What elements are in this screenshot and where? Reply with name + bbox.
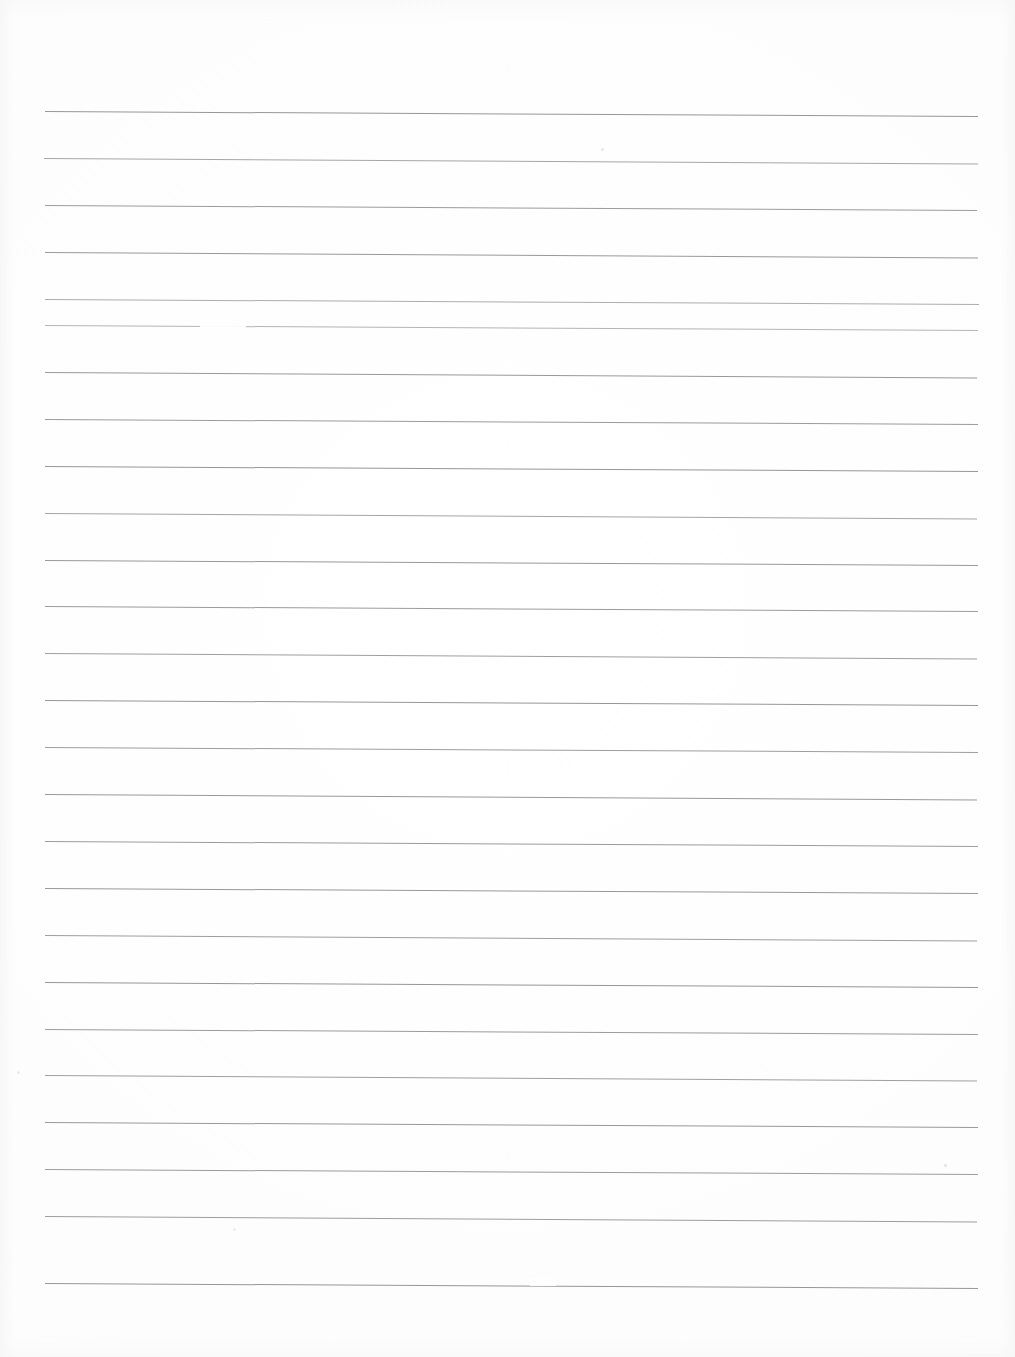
ruled-line <box>45 1169 978 1175</box>
ruled-line <box>45 205 977 211</box>
ruled-line <box>45 794 977 800</box>
ruled-lines-layer <box>0 0 1015 1357</box>
ruled-line <box>45 606 978 612</box>
ruled-line <box>45 1122 978 1128</box>
ruled-line <box>45 700 978 706</box>
ruled-line <box>45 419 978 425</box>
ruled-line <box>45 466 978 472</box>
ruled-line <box>45 888 978 894</box>
ruled-line <box>45 1216 977 1222</box>
ruled-line <box>45 841 978 847</box>
ruled-line <box>45 513 977 519</box>
ruled-line <box>45 560 978 566</box>
ruled-line <box>45 1029 978 1035</box>
ruled-line <box>45 111 978 117</box>
ruled-line <box>45 252 978 259</box>
ruled-line <box>45 299 979 305</box>
ruled-line <box>45 325 978 331</box>
ruled-line <box>45 935 977 941</box>
ruled-line <box>45 982 978 988</box>
scanned-page: Blank Ruled Notebook Page A scanned shee… <box>0 0 1015 1357</box>
ruled-line <box>45 653 977 659</box>
ruled-line <box>45 747 978 753</box>
ruled-line <box>45 1283 978 1289</box>
ruled-line <box>45 1075 977 1081</box>
ruled-line <box>45 372 977 378</box>
ruled-line <box>44 158 978 165</box>
